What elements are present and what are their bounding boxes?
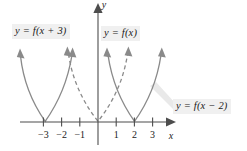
x-tick-label-1: 1 [114,129,119,140]
curve-path-f-x-plus-3 [21,55,73,121]
curve-label-f-x: y = f(x) [101,26,140,41]
x-axis-label: x [168,130,174,141]
x-tick-label--2: −2 [56,129,67,140]
curve-f-x-plus-3 [17,48,77,122]
curve-label-f-x-minus-2: y = f(x − 2) [173,99,231,114]
curve-arrow-right-left-up [103,48,111,58]
x-tick-label--3: −3 [38,129,49,140]
x-tick-label-3: 3 [150,129,155,140]
y-axis-label: y [101,0,107,10]
curve-arrow-right-right-up [158,48,166,58]
function-translation-figure: −3 −2 −1 1 2 3 x y y = f(x + 3) y = f(x)… [0,0,247,151]
graph-canvas: −3 −2 −1 1 2 3 x y [0,0,247,151]
curve-label-f-x-plus-3: y = f(x + 3) [12,24,70,39]
curve-arrow-center-left-up [64,47,72,57]
x-tick-label--1: −1 [74,129,85,140]
x-tick-label-2: 2 [132,129,137,140]
x-tick-labels: −3 −2 −1 1 2 3 [38,129,155,140]
curve-arrow-left-up [17,49,25,59]
curve-path-f-x-minus-2 [108,55,161,121]
curve-arrow-center-right-up [125,47,133,57]
x-axis-arrow [166,117,176,126]
